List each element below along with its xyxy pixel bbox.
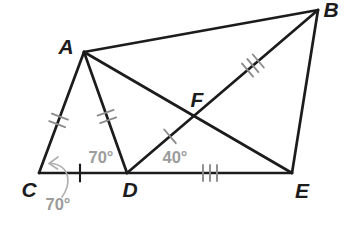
segment-db-through-f: [127, 10, 318, 173]
segment-ca: [39, 52, 84, 173]
vertex-label-d: D: [122, 178, 137, 201]
angle-label-acd-outside: 70°: [46, 195, 71, 213]
figure-canvas: 70° 40° 70° A B C D E F: [0, 0, 352, 226]
segment-ab: [84, 10, 318, 52]
vertex-label-c: C: [21, 178, 37, 201]
angle-leader-arrow: [49, 157, 68, 197]
geometry-figure: 70° 40° 70° A B C D E F: [0, 0, 352, 226]
angle-label-fde: 40°: [163, 148, 188, 166]
segment-be: [292, 10, 318, 173]
vertex-label-e: E: [295, 179, 310, 202]
angle-label-adc: 70°: [89, 148, 114, 166]
vertex-label-a: A: [57, 35, 73, 58]
segment-ae-through-f: [84, 52, 292, 173]
vertex-label-b: B: [323, 0, 338, 21]
congruence-ticks: [49, 55, 264, 182]
angle-labels: 70° 40° 70°: [46, 148, 188, 213]
vertex-label-f: F: [191, 88, 205, 111]
